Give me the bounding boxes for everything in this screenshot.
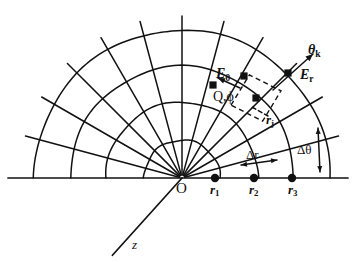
r2-label: r2	[249, 183, 258, 198]
E-theta-label: Eθ	[216, 67, 230, 83]
polar-grid-diagram	[0, 0, 356, 262]
z-axis-line	[112, 178, 182, 255]
origin-label: O	[176, 181, 187, 196]
delta-theta-label: Δθ	[297, 143, 312, 156]
delta-theta-dimension-shaft	[318, 128, 320, 172]
node-Q-label: Q,ϕ	[213, 90, 234, 104]
grid-ray-165deg	[26, 136, 180, 177]
grid-layer	[26, 16, 339, 178]
delta-theta-dimension-head	[316, 128, 321, 134]
z-axis-label: z	[132, 238, 137, 251]
r3-label: r3	[288, 183, 297, 198]
rj-label: rj	[266, 113, 274, 128]
node-dots	[209, 69, 296, 182]
axis-node-r3	[288, 174, 296, 182]
cell-upper-node	[240, 72, 247, 79]
r1-label: r1	[210, 183, 219, 198]
cell-center-node	[252, 94, 259, 101]
E-r-label: Er	[300, 68, 314, 84]
grid-ray-45deg	[184, 63, 296, 175]
figure-canvas: O z r1 r2 r3 rj θk Eθ Er Q,ϕ Δr Δθ	[0, 0, 356, 262]
grid-ray-15deg	[185, 136, 339, 177]
delta-r-label: Δr	[246, 148, 259, 161]
theta-k-label: θk	[308, 43, 321, 59]
cell-right-node	[284, 69, 291, 76]
axis-node-r1	[211, 174, 219, 182]
grid-ray-135deg	[67, 63, 179, 175]
delta-theta-dimension-head	[317, 166, 322, 172]
axis-node-r2	[250, 174, 258, 182]
grid-ray-105deg	[140, 22, 181, 176]
